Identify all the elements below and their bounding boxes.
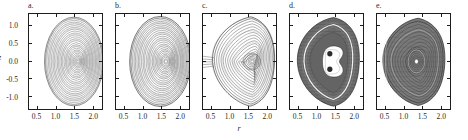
x-tick-d-1-top bbox=[298, 14, 299, 17]
x-tick-label-c-2: 1.0 bbox=[225, 112, 234, 121]
y-tick-a-4-r bbox=[99, 78, 102, 79]
x-tick-b-4-top bbox=[180, 14, 181, 17]
panel-b-poincare-svg bbox=[116, 14, 189, 109]
x-tick-label-b-3: 1.5 bbox=[157, 112, 166, 121]
x-tick-a-4 bbox=[93, 106, 94, 109]
panel-e: e. bbox=[368, 0, 458, 140]
panel-a-x-labels: 0.5 1.0 1.5 2.0 bbox=[28, 112, 103, 124]
panel-a-plot-frame bbox=[28, 13, 103, 110]
x-tick-label-e-1: 0.5 bbox=[380, 112, 389, 121]
x-tick-label-d-1: 0.5 bbox=[293, 112, 302, 121]
x-tick-label-c-1: 0.5 bbox=[206, 112, 215, 121]
y-tick-c-4 bbox=[203, 78, 206, 79]
x-tick-e-3 bbox=[422, 106, 423, 109]
y-tick-b-4-r bbox=[186, 78, 189, 79]
x-tick-d-3 bbox=[335, 106, 336, 109]
panel-d-poincare-svg bbox=[290, 14, 363, 109]
x-tick-c-3 bbox=[248, 106, 249, 109]
y-tick-b-2-r bbox=[186, 43, 189, 44]
x-tick-label-e-3: 1.5 bbox=[418, 112, 427, 121]
x-tick-b-3-top bbox=[161, 14, 162, 17]
panel-c: c. bbox=[194, 0, 284, 140]
y-tick-a-2-r bbox=[99, 43, 102, 44]
y-tick-d-5 bbox=[290, 96, 293, 97]
panel-c-x-labels: 0.5 1.0 1.5 2.0 bbox=[202, 112, 277, 124]
x-tick-e-4-top bbox=[441, 14, 442, 17]
x-tick-d-4-top bbox=[354, 14, 355, 17]
y-tick-a-3-r bbox=[99, 61, 102, 62]
y-tick-c-4-r bbox=[273, 78, 276, 79]
panel-d: d. bbox=[281, 0, 371, 140]
x-tick-d-1 bbox=[298, 106, 299, 109]
x-tick-a-2 bbox=[56, 106, 57, 109]
x-tick-a-1 bbox=[37, 106, 38, 109]
y-tick-label-2: 0.5 bbox=[9, 38, 18, 47]
y-tick-e-1-r bbox=[447, 25, 450, 26]
y-axis-title: z bbox=[0, 53, 1, 62]
y-tick-label-1: 1.0 bbox=[9, 21, 18, 30]
x-tick-c-1-top bbox=[211, 14, 212, 17]
x-tick-e-1 bbox=[385, 106, 386, 109]
y-tick-a-1 bbox=[29, 25, 32, 26]
y-tick-b-1-r bbox=[186, 25, 189, 26]
x-tick-a-3-top bbox=[74, 14, 75, 17]
x-tick-e-2-top bbox=[404, 14, 405, 17]
y-tick-c-2 bbox=[203, 43, 206, 44]
y-tick-d-3-r bbox=[360, 61, 363, 62]
y-tick-e-4 bbox=[377, 78, 380, 79]
y-tick-label-3: 0.0 bbox=[9, 56, 18, 65]
x-tick-label-e-2: 1.0 bbox=[399, 112, 408, 121]
y-tick-b-3-r bbox=[186, 61, 189, 62]
panel-a: a. 1.0 0.5 0.0 -0.5 -1.0 z bbox=[20, 0, 110, 140]
x-tick-c-2-top bbox=[230, 14, 231, 17]
y-tick-e-1 bbox=[377, 25, 380, 26]
y-tick-d-4-r bbox=[360, 78, 363, 79]
x-tick-d-3-top bbox=[335, 14, 336, 17]
y-tick-c-2-r bbox=[273, 43, 276, 44]
panel-a-poincare-svg bbox=[29, 14, 102, 109]
panel-c-poincare-svg bbox=[203, 14, 276, 109]
panel-e-letter: e. bbox=[376, 1, 382, 10]
panel-e-poincare-svg bbox=[377, 14, 450, 109]
y-tick-a-2 bbox=[29, 43, 32, 44]
x-tick-label-c-4: 2.0 bbox=[263, 112, 272, 121]
x-tick-label-a-2: 1.0 bbox=[51, 112, 60, 121]
panel-a-letter: a. bbox=[28, 1, 34, 10]
x-tick-d-2-top bbox=[317, 14, 318, 17]
x-tick-label-a-3: 1.5 bbox=[70, 112, 79, 121]
x-tick-label-b-2: 1.0 bbox=[138, 112, 147, 121]
y-tick-d-2 bbox=[290, 43, 293, 44]
panel-c-plot-frame bbox=[202, 13, 277, 110]
y-tick-e-3 bbox=[377, 61, 380, 62]
y-tick-c-5 bbox=[203, 96, 206, 97]
y-tick-d-1 bbox=[290, 25, 293, 26]
panel-e-x-labels: 0.5 1.0 1.5 2.0 bbox=[376, 112, 451, 124]
x-tick-label-e-4: 2.0 bbox=[437, 112, 446, 121]
y-tick-b-1 bbox=[116, 25, 119, 26]
x-tick-label-a-4: 2.0 bbox=[89, 112, 98, 121]
y-axis-labels: 1.0 0.5 0.0 -0.5 -1.0 bbox=[0, 13, 20, 110]
x-tick-c-4 bbox=[267, 106, 268, 109]
y-tick-b-2 bbox=[116, 43, 119, 44]
x-tick-e-1-top bbox=[385, 14, 386, 17]
x-tick-a-3 bbox=[74, 106, 75, 109]
y-tick-a-1-r bbox=[99, 25, 102, 26]
y-tick-e-5-r bbox=[447, 96, 450, 97]
x-tick-e-4 bbox=[441, 106, 442, 109]
y-tick-d-5-r bbox=[360, 96, 363, 97]
y-tick-c-5-r bbox=[273, 96, 276, 97]
x-tick-e-2 bbox=[404, 106, 405, 109]
panel-b: b. bbox=[107, 0, 197, 140]
y-tick-e-2-r bbox=[447, 43, 450, 44]
y-tick-a-4 bbox=[29, 78, 32, 79]
panel-d-letter: d. bbox=[289, 1, 295, 10]
panel-b-x-labels: 0.5 1.0 1.5 2.0 bbox=[115, 112, 190, 124]
y-tick-c-3 bbox=[203, 61, 206, 62]
panel-b-letter: b. bbox=[115, 1, 121, 10]
x-tick-d-4 bbox=[354, 106, 355, 109]
x-tick-label-b-4: 2.0 bbox=[176, 112, 185, 121]
poincare-figure: a. 1.0 0.5 0.0 -0.5 -1.0 z bbox=[0, 0, 468, 140]
x-tick-label-d-3: 1.5 bbox=[331, 112, 340, 121]
x-tick-label-d-4: 2.0 bbox=[350, 112, 359, 121]
y-tick-e-5 bbox=[377, 96, 380, 97]
